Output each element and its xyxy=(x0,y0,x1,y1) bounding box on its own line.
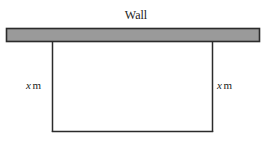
right-side-variable: x xyxy=(217,79,222,91)
left-side-unit: m xyxy=(32,79,41,91)
wall-bar xyxy=(7,29,260,42)
left-side-variable: x xyxy=(26,79,31,91)
right-side-unit: m xyxy=(223,79,232,91)
right-side-length-label: xm xyxy=(217,80,232,91)
left-side-length-label: xm xyxy=(26,80,41,91)
geometry-figure: Wall xm xm xyxy=(0,0,272,145)
wall-label: Wall xyxy=(0,9,272,21)
